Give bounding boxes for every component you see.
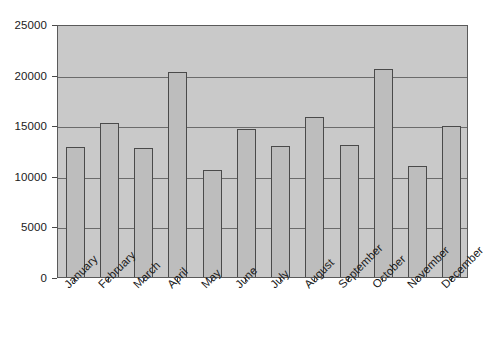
y-tick-label: 15000 <box>15 120 47 132</box>
bar-chart-figure: 0500010000150002000025000 JanuaryFebruar… <box>0 0 486 344</box>
bar-series <box>58 26 467 277</box>
bar <box>305 117 324 277</box>
y-tick-label: 20000 <box>15 70 47 82</box>
bar <box>66 147 85 277</box>
y-tick-label: 10000 <box>15 171 47 183</box>
bar <box>203 170 222 277</box>
bar <box>100 123 119 277</box>
y-tick-label: 25000 <box>15 19 47 31</box>
bar <box>168 72 187 277</box>
x-axis: JanuaryFebruaryMarchAprilMayJuneJulyAugu… <box>0 278 486 344</box>
bar <box>340 145 359 277</box>
bar <box>408 166 427 277</box>
bar <box>271 146 290 277</box>
bar <box>237 129 256 277</box>
plot-area <box>57 25 468 278</box>
y-tick-label: 5000 <box>21 221 47 233</box>
